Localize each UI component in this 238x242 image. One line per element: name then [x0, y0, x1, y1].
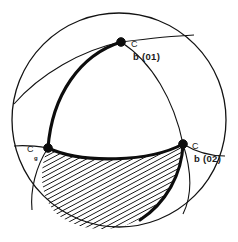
thin-arc-upper-left	[14, 42, 121, 104]
left-node-subscript-label: g	[34, 155, 38, 161]
node-left[interactable]	[44, 144, 53, 153]
thick-arc-top-to-left	[48, 42, 121, 148]
right-node-c-label: C	[192, 141, 199, 151]
figure-canvas: C b (01) C g C b (02)	[0, 0, 238, 242]
stereographic-figure: C b (01) C g C b (02)	[0, 0, 238, 242]
top-node-label: b (01)	[133, 51, 160, 62]
node-right[interactable]	[179, 140, 188, 149]
top-node-c-label: C	[131, 39, 138, 49]
left-node-c-label: C	[27, 144, 34, 154]
node-top[interactable]	[117, 38, 126, 47]
right-node-label: b (02)	[194, 153, 221, 164]
